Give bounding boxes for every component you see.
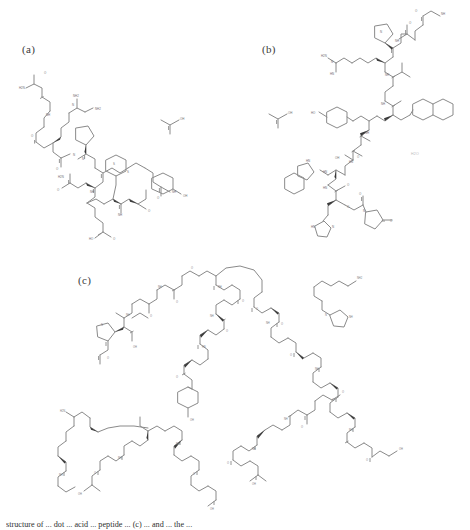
figure-caption: structure of ... dot ... acid ... peptid… bbox=[6, 520, 464, 530]
svg-text:OH: OH bbox=[399, 447, 403, 451]
svg-text:NH: NH bbox=[252, 447, 256, 451]
svg-text:OH: OH bbox=[183, 194, 187, 198]
svg-text:O: O bbox=[150, 314, 152, 318]
svg-text:O: O bbox=[409, 21, 412, 25]
svg-text:NH: NH bbox=[284, 417, 288, 421]
svg-text:H2N: H2N bbox=[321, 54, 327, 58]
svg-text:O: O bbox=[94, 471, 96, 475]
svg-text:N: N bbox=[73, 153, 75, 157]
svg-text:OH: OH bbox=[335, 156, 339, 160]
structure-c-drawing: N O OH NH O NH O O NH O NH O HN O NH O O bbox=[0, 260, 470, 525]
svg-text:NH: NH bbox=[158, 285, 162, 289]
svg-text:H2N: H2N bbox=[60, 409, 65, 413]
svg-text:O: O bbox=[242, 299, 244, 303]
svg-text:NH: NH bbox=[266, 321, 270, 325]
counterion-b-label: OH bbox=[288, 111, 292, 115]
svg-text:O: O bbox=[342, 390, 344, 394]
svg-text:NH: NH bbox=[46, 113, 50, 117]
svg-text:HN: HN bbox=[306, 159, 310, 163]
counterion-b: OH bbox=[263, 102, 303, 132]
svg-text:O: O bbox=[176, 300, 178, 304]
svg-text:N: N bbox=[82, 157, 84, 161]
hydrate-note-b: H2O bbox=[411, 152, 419, 156]
svg-text:NH: NH bbox=[315, 367, 319, 371]
svg-text:NH: NH bbox=[90, 190, 94, 194]
svg-text:NH: NH bbox=[118, 213, 122, 217]
svg-text:HN: HN bbox=[323, 170, 327, 174]
svg-text:NH: NH bbox=[441, 12, 445, 16]
svg-text:N: N bbox=[101, 323, 103, 327]
svg-text:O: O bbox=[44, 71, 47, 75]
svg-text:S: S bbox=[127, 170, 129, 174]
svg-text:NH: NH bbox=[395, 39, 399, 43]
svg-text:O: O bbox=[227, 461, 229, 465]
svg-text:H2N: H2N bbox=[19, 86, 25, 90]
svg-text:O: O bbox=[347, 183, 350, 187]
structure-b-drawing: NH O NH O N NH H2N HN N NH NH HO HN O OH… bbox=[235, 0, 470, 265]
svg-text:NH: NH bbox=[365, 131, 369, 135]
svg-text:NH: NH bbox=[218, 285, 222, 289]
svg-text:NH2: NH2 bbox=[357, 276, 363, 280]
svg-text:HO: HO bbox=[89, 237, 94, 241]
svg-text:O: O bbox=[332, 398, 334, 402]
svg-text:NH: NH bbox=[385, 73, 389, 77]
counterion-a-label: OH bbox=[180, 117, 184, 121]
svg-text:O: O bbox=[107, 356, 109, 360]
svg-text:NH: NH bbox=[210, 314, 214, 318]
svg-text:N: N bbox=[331, 60, 333, 64]
svg-text:O: O bbox=[191, 266, 193, 270]
svg-text:NH: NH bbox=[381, 102, 385, 106]
structure-a-drawing: H2N O NH O N NH2 NH2 O N N S O NH NH O H… bbox=[0, 0, 235, 265]
panel-c: (c) bbox=[0, 260, 470, 525]
counterion-a: OH bbox=[155, 108, 195, 138]
svg-text:O: O bbox=[281, 322, 283, 326]
svg-text:N: N bbox=[325, 313, 327, 317]
svg-text:OH: OH bbox=[133, 345, 137, 349]
svg-text:NH: NH bbox=[59, 473, 63, 477]
svg-text:O: O bbox=[359, 192, 362, 196]
svg-text:HN: HN bbox=[349, 160, 353, 164]
svg-text:O: O bbox=[415, 9, 418, 13]
svg-text:O: O bbox=[301, 425, 303, 429]
svg-text:O: O bbox=[193, 472, 195, 476]
svg-text:N: N bbox=[363, 209, 365, 213]
svg-text:NH: NH bbox=[126, 313, 130, 317]
svg-text:NH2: NH2 bbox=[95, 107, 101, 111]
svg-text:O: O bbox=[56, 167, 59, 171]
svg-text:HN: HN bbox=[330, 72, 334, 76]
svg-text:NH: NH bbox=[176, 442, 180, 446]
svg-text:HN: HN bbox=[323, 186, 327, 190]
svg-text:H2N: H2N bbox=[58, 175, 64, 179]
panel-a: (a) bbox=[0, 0, 235, 265]
svg-text:NH: NH bbox=[349, 428, 353, 432]
svg-text:NH: NH bbox=[118, 456, 122, 460]
svg-text:S: S bbox=[113, 162, 115, 166]
svg-text:NH: NH bbox=[349, 315, 353, 319]
svg-text:O: O bbox=[148, 209, 151, 213]
svg-text:HN: HN bbox=[202, 345, 206, 349]
svg-text:O: O bbox=[176, 375, 178, 379]
svg-text:NH: NH bbox=[172, 190, 176, 194]
svg-text:OH: OH bbox=[78, 492, 82, 496]
svg-text:NH2: NH2 bbox=[73, 94, 79, 98]
svg-text:OH: OH bbox=[190, 418, 194, 422]
panel-b: (b) bbox=[235, 0, 470, 265]
svg-text:N: N bbox=[332, 225, 334, 229]
svg-text:O: O bbox=[226, 329, 228, 333]
svg-text:O: O bbox=[366, 458, 368, 462]
svg-text:O: O bbox=[31, 134, 34, 138]
svg-text:O: O bbox=[256, 307, 258, 311]
svg-text:OH: OH bbox=[252, 482, 256, 486]
svg-text:N: N bbox=[72, 103, 74, 107]
svg-text:OH: OH bbox=[210, 507, 214, 511]
svg-text:HN: HN bbox=[311, 225, 315, 229]
svg-text:O: O bbox=[113, 237, 116, 241]
svg-text:O: O bbox=[157, 196, 160, 200]
svg-text:O: O bbox=[57, 188, 60, 192]
svg-text:HO: HO bbox=[311, 111, 316, 115]
svg-text:O: O bbox=[290, 353, 292, 357]
svg-text:O: O bbox=[357, 155, 360, 159]
svg-text:O: O bbox=[390, 219, 393, 223]
svg-text:N: N bbox=[380, 30, 382, 34]
